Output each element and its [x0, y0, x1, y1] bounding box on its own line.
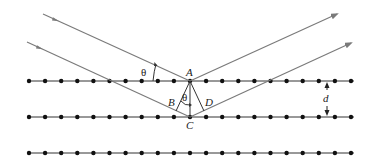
atom-dot	[317, 151, 321, 155]
atom-dot	[333, 79, 337, 83]
atom-dot	[252, 115, 256, 119]
arrow-icon	[52, 17, 59, 21]
atom-dot	[284, 115, 288, 119]
atom-dot	[59, 151, 63, 155]
atom-dot	[204, 79, 208, 83]
atom-dot	[107, 115, 111, 119]
atom-dot	[43, 79, 47, 83]
atom-dot	[349, 115, 353, 119]
incident-ray-upper	[43, 14, 190, 81]
arrow-down-icon	[325, 110, 330, 116]
reflected-ray-lower	[190, 43, 351, 117]
reflected-ray-upper	[190, 14, 337, 81]
label-theta-incident: θ	[141, 66, 146, 78]
atom-dot	[220, 115, 224, 119]
atom-dot	[140, 79, 144, 83]
atom-dot	[349, 151, 353, 155]
atom-dot	[156, 115, 160, 119]
incident-ray-lower	[27, 42, 190, 117]
atom-dot	[220, 151, 224, 155]
atom-dot	[204, 115, 208, 119]
atom-dot	[349, 79, 353, 83]
atom-dot	[140, 115, 144, 119]
atom-dot	[27, 115, 31, 119]
atom-dot	[172, 79, 176, 83]
atom-dot	[301, 115, 305, 119]
label-B: B	[168, 96, 175, 108]
atom-dot	[75, 79, 79, 83]
atom-dot	[220, 79, 224, 83]
atom-dot	[333, 151, 337, 155]
atom-dot	[59, 115, 63, 119]
atom-dot	[172, 115, 176, 119]
label-theta-inner: θ	[182, 91, 187, 103]
atom-dot	[59, 79, 63, 83]
atom-dot	[140, 151, 144, 155]
atom-dot	[268, 151, 272, 155]
atom-dot	[236, 79, 240, 83]
atom-dot	[236, 115, 240, 119]
diagram-svg: A B C D d θ θ	[0, 0, 372, 157]
atom-dot	[284, 79, 288, 83]
construction-lines	[176, 81, 204, 117]
atom-dot	[123, 79, 127, 83]
label-C: C	[186, 119, 194, 131]
atom-dot	[301, 151, 305, 155]
atom-dot	[333, 115, 337, 119]
atom-dot	[172, 151, 176, 155]
atom-dot	[107, 151, 111, 155]
atom-dot	[43, 151, 47, 155]
atom-dot	[91, 151, 95, 155]
atom-dot	[284, 151, 288, 155]
atom-dot	[156, 79, 160, 83]
atom-dot	[236, 151, 240, 155]
bragg-diagram: A B C D d θ θ	[0, 0, 372, 157]
atom-dot	[27, 151, 31, 155]
label-D: D	[204, 96, 213, 108]
atom-dot	[75, 115, 79, 119]
atom-dot	[188, 151, 192, 155]
atom-dot	[204, 151, 208, 155]
segment-AD	[190, 81, 204, 111]
label-d: d	[323, 92, 329, 104]
atom-dot	[91, 79, 95, 83]
label-A: A	[185, 66, 193, 78]
atom-dot	[123, 151, 127, 155]
atom-dot	[317, 79, 321, 83]
atom-dot	[27, 79, 31, 83]
theta-arc-incident	[153, 64, 156, 81]
incident-rays	[27, 14, 190, 117]
atom-dot	[268, 115, 272, 119]
atom-dot	[301, 79, 305, 83]
atom-dot	[123, 115, 127, 119]
atom-dot	[252, 79, 256, 83]
atom-dot	[317, 115, 321, 119]
arrow-up-icon	[325, 82, 330, 88]
atom-dot	[75, 151, 79, 155]
arrow-icon	[36, 45, 43, 49]
atom-dot	[156, 151, 160, 155]
atom-dot	[43, 115, 47, 119]
atom-dot	[91, 115, 95, 119]
arrow-icon	[154, 62, 158, 66]
atom-dot	[252, 151, 256, 155]
